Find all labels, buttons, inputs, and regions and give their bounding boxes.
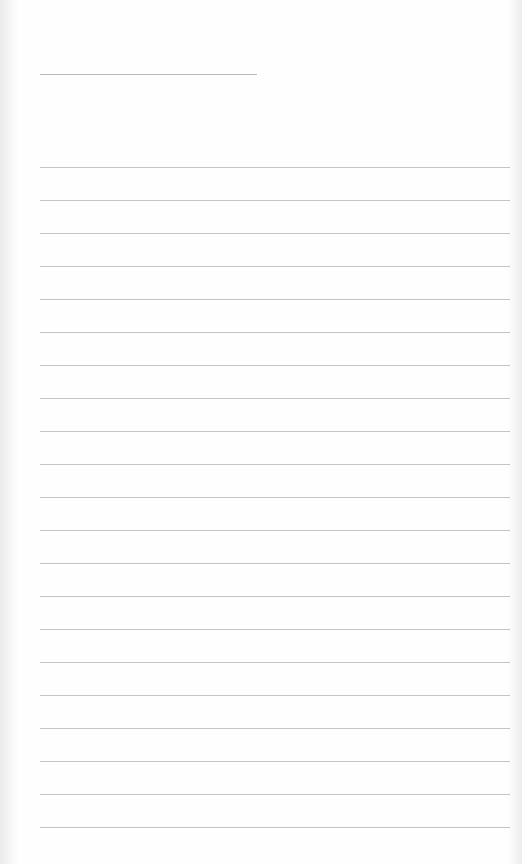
ruled-line <box>40 167 510 168</box>
ruled-line <box>40 398 510 399</box>
ruled-line <box>40 695 510 696</box>
ruled-line <box>40 497 510 498</box>
ruled-line <box>40 563 510 564</box>
ruled-line <box>40 728 510 729</box>
ruled-line <box>40 827 510 828</box>
paper-right-shadow <box>508 0 522 864</box>
lined-paper-page <box>0 0 522 864</box>
ruled-line <box>40 794 510 795</box>
ruled-line <box>40 596 510 597</box>
ruled-line <box>40 365 510 366</box>
ruled-line <box>40 530 510 531</box>
ruled-line <box>40 761 510 762</box>
ruled-line <box>40 332 510 333</box>
ruled-line <box>40 299 510 300</box>
ruled-line <box>40 266 510 267</box>
ruled-line <box>40 233 510 234</box>
ruled-line <box>40 662 510 663</box>
ruled-line <box>40 431 510 432</box>
ruled-line <box>40 200 510 201</box>
paper-left-shadow <box>0 0 18 864</box>
ruled-line <box>40 464 510 465</box>
ruled-line <box>40 629 510 630</box>
header-name-line <box>40 74 257 75</box>
